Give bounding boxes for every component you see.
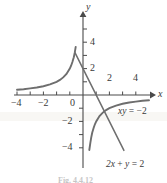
line-label-plus: +	[115, 159, 125, 169]
plot-canvas	[0, 0, 167, 183]
line-equation-label: 2x + y = 2	[106, 160, 144, 170]
line-2x-plus-y-equals-2	[75, 53, 124, 151]
line-label-equals: =	[129, 159, 139, 169]
x-tick-label-2: 2	[107, 73, 112, 83]
line-label-lhs: 2x	[106, 159, 115, 169]
axes-group	[14, 11, 156, 168]
y-tick-label--4: −4	[62, 142, 72, 152]
line-label-rhs: 2	[139, 159, 144, 169]
figure-container: −4 −2 0 2 4 4 2 −2 −4 y x xy = −2 2x + y…	[0, 0, 167, 183]
x-tick-label--2: −2	[38, 98, 48, 108]
hyperbola-upper-left-branch	[17, 47, 76, 90]
y-axis-label: y	[86, 2, 90, 12]
hyperbola-label-equals: =	[126, 106, 136, 116]
y-tick-label-4: 4	[90, 37, 95, 47]
y-tick-label-2: 2	[90, 63, 95, 73]
hyperbola-label-rhs: −2	[137, 106, 147, 116]
x-axis-label: x	[158, 89, 162, 99]
x-tick-label-0: 0	[70, 98, 75, 108]
y-tick-label--2: −2	[62, 116, 72, 126]
hyperbola-equation-label: xy = −2	[118, 107, 147, 117]
x-axis-arrowhead	[150, 92, 156, 99]
x-tick-label--4: −4	[11, 98, 21, 108]
figure-caption: Fig. 4.4.12	[58, 177, 93, 183]
x-tick-label-4: 4	[133, 73, 138, 83]
